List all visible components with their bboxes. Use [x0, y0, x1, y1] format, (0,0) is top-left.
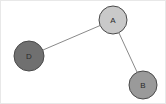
node-layer: ABD [14, 6, 157, 99]
graph-node-circle-A[interactable] [99, 6, 127, 34]
graph-node-A[interactable]: A [99, 6, 127, 34]
graph-node-circle-B[interactable] [129, 71, 157, 99]
graph-canvas: ABD [0, 0, 166, 104]
graph-edge-D-A[interactable] [43, 26, 100, 51]
graph-svg: ABD [1, 1, 166, 104]
graph-node-circle-D[interactable] [14, 41, 44, 71]
edge-layer [43, 26, 137, 73]
graph-node-D[interactable]: D [14, 41, 44, 71]
graph-edge-A-B[interactable] [119, 33, 137, 73]
graph-node-B[interactable]: B [129, 71, 157, 99]
